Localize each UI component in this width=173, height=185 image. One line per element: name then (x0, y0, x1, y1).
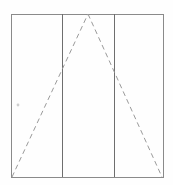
figure-background (0, 0, 173, 185)
geometry-figure (0, 0, 173, 185)
paper-speck (17, 104, 20, 107)
figure-canvas (0, 0, 173, 185)
